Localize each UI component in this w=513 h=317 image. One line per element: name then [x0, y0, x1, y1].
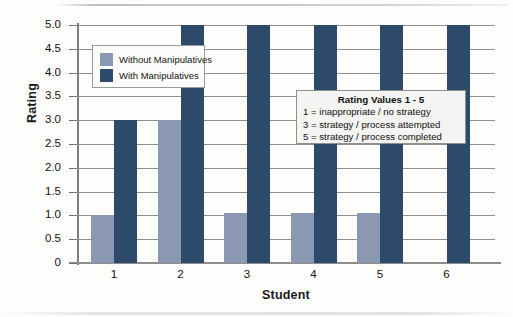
bar-group-student-6 — [424, 25, 470, 263]
y-tick-mark — [69, 168, 77, 169]
y-tick-mark — [69, 144, 77, 145]
x-tick-label-1: 1 — [84, 268, 144, 280]
legend-swatch-with-icon — [100, 69, 113, 82]
rating-values-title: Rating Values 1 - 5 — [303, 94, 459, 106]
legend-item-without: Without Manipulatives — [100, 51, 198, 67]
bar-with-student-1 — [114, 120, 137, 263]
gridline — [77, 263, 495, 264]
chart-page: Rating Student 123456 00.51.01.52.02.53.… — [0, 0, 513, 317]
chart-legend: Without Manipulatives With Manipulatives — [92, 45, 205, 88]
x-tick-label-2: 2 — [151, 268, 211, 280]
y-tick-label: 5.0 — [21, 19, 61, 31]
bar-with-student-5 — [380, 25, 403, 263]
bar-group-student-3 — [224, 25, 270, 263]
bar-without-student-3 — [224, 213, 247, 263]
x-tick-label-4: 4 — [284, 268, 344, 280]
bar-with-student-3 — [247, 25, 270, 263]
y-tick-mark — [69, 96, 77, 97]
x-axis-title: Student — [77, 288, 495, 302]
y-tick-mark — [69, 120, 77, 121]
legend-label-without: Without Manipulatives — [119, 54, 212, 65]
legend-item-with: With Manipulatives — [100, 67, 198, 83]
x-tick-label-6: 6 — [417, 268, 477, 280]
y-tick-label: 3.0 — [21, 114, 61, 126]
y-tick-mark — [69, 239, 77, 240]
y-tick-label: 2.5 — [21, 138, 61, 150]
bar-without-student-1 — [91, 215, 114, 263]
bar-with-student-4 — [314, 25, 337, 263]
y-tick-mark — [69, 215, 77, 216]
y-tick-label: 2.0 — [21, 162, 61, 174]
scan-artifact-line-bottom — [0, 312, 513, 315]
y-tick-mark — [69, 192, 77, 193]
y-tick-label: 4.0 — [21, 67, 61, 79]
y-tick-label: 1.0 — [21, 209, 61, 221]
rating-value-line-1: 1 = inappropriate / no strategy — [303, 106, 459, 119]
bar-group-student-4 — [291, 25, 337, 263]
y-tick-mark — [69, 49, 77, 50]
bar-without-student-2 — [158, 120, 181, 263]
legend-swatch-without-icon — [100, 53, 113, 66]
bar-group-student-5 — [357, 25, 403, 263]
bar-with-student-6 — [447, 25, 470, 263]
y-tick-label: 3.5 — [21, 90, 61, 102]
rating-value-line-2: 3 = strategy / process attempted — [303, 119, 459, 132]
scan-artifact-line-top — [56, 4, 508, 6]
y-tick-label: 0.5 — [21, 233, 61, 245]
x-tick-label-3: 3 — [217, 268, 277, 280]
bar-without-student-5 — [357, 213, 380, 263]
x-tick-label-5: 5 — [350, 268, 410, 280]
y-tick-mark — [69, 73, 77, 74]
rating-value-line-3: 5 = strategy / process completed — [303, 131, 459, 144]
legend-label-with: With Manipulatives — [119, 70, 199, 81]
y-tick-mark — [69, 25, 77, 26]
y-tick-label: 0 — [21, 257, 61, 269]
y-tick-label: 1.5 — [21, 186, 61, 198]
bar-without-student-4 — [291, 213, 314, 263]
rating-values-key-box: Rating Values 1 - 5 1 = inappropriate / … — [296, 90, 466, 144]
y-tick-mark — [69, 263, 77, 264]
y-tick-label: 4.5 — [21, 43, 61, 55]
